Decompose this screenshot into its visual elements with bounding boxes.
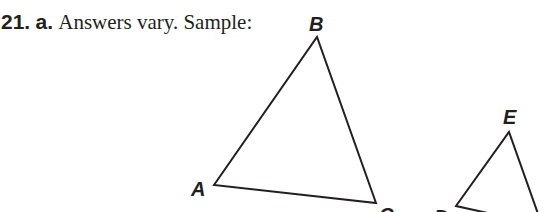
label-d: D bbox=[434, 206, 448, 212]
label-e: E bbox=[503, 106, 517, 128]
triangle-def bbox=[456, 132, 542, 212]
label-b: B bbox=[309, 13, 323, 35]
triangles-figure: B A C E D bbox=[0, 0, 555, 212]
label-a: A bbox=[190, 178, 205, 200]
triangle-abc bbox=[214, 37, 376, 203]
label-c: C bbox=[379, 204, 394, 212]
